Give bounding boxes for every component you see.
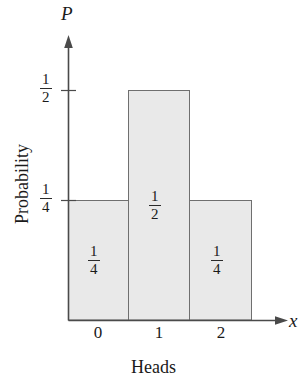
y-axis-variable-label: P (61, 4, 73, 23)
bar-value-label-heads-1: 1 2 (149, 189, 169, 223)
fraction-denominator: 4 (88, 262, 100, 277)
fraction-numerator: 1 (88, 244, 100, 259)
bar-value-label-heads-0: 1 4 (88, 244, 108, 278)
fraction-denominator: 4 (40, 200, 52, 215)
x-axis-title: Heads (0, 358, 307, 376)
y-axis-title: Probability (13, 124, 31, 244)
fraction-numerator: 1 (211, 244, 223, 259)
y-tick-label-one-quarter: 1 4 (40, 182, 60, 216)
bar-value-label-heads-2: 1 4 (211, 244, 231, 278)
fraction-denominator: 2 (40, 90, 52, 105)
fraction-numerator: 1 (149, 189, 161, 204)
fraction-denominator: 4 (211, 262, 223, 277)
x-tick-label-0: 0 (86, 324, 110, 341)
probability-histogram-figure: P x 1 2 1 4 1 4 1 2 1 4 (0, 0, 307, 386)
fraction-numerator: 1 (40, 72, 52, 87)
fraction-denominator: 2 (149, 207, 161, 222)
x-axis-variable-label: x (289, 311, 297, 330)
fraction-numerator: 1 (40, 182, 52, 197)
y-tick-label-one-half: 1 2 (40, 72, 60, 106)
x-tick-label-2: 2 (209, 324, 233, 341)
x-tick-label-1: 1 (147, 324, 171, 341)
